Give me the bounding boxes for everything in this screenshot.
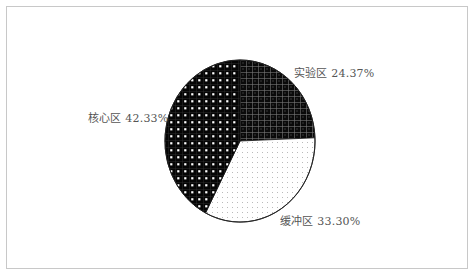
label-experimental: 实验区 24.37% <box>294 64 374 80</box>
label-buffer: 缓冲区 33.30% <box>280 212 360 228</box>
label-core: 核心区 42.33% <box>88 109 168 125</box>
pie-chart <box>0 0 475 278</box>
